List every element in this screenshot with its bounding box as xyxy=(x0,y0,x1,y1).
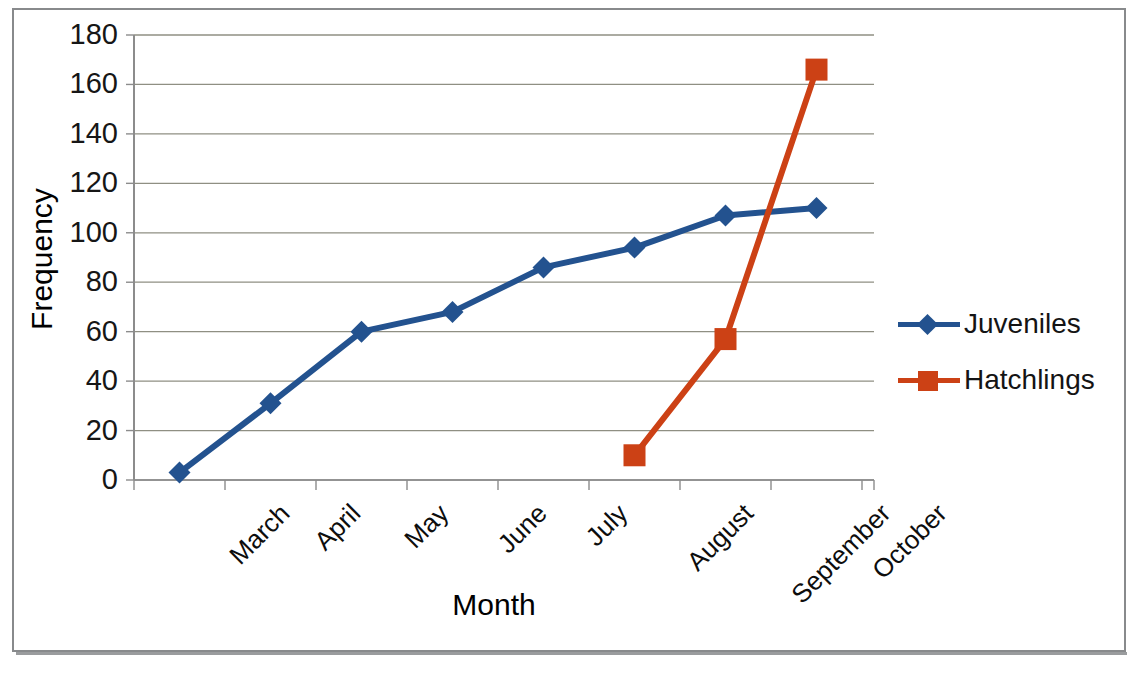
data-point-marker[interactable] xyxy=(715,204,737,226)
y-tick-label-20: 20 xyxy=(22,416,118,445)
y-tick-label-180: 180 xyxy=(22,20,118,49)
diamond-marker-icon xyxy=(898,311,960,337)
data-point-marker[interactable] xyxy=(624,444,646,466)
data-series-group xyxy=(169,59,828,484)
legend-marker xyxy=(917,314,938,335)
data-point-marker[interactable] xyxy=(442,301,464,323)
data-point-marker[interactable] xyxy=(806,197,828,219)
legend-label: Juveniles xyxy=(964,308,1081,340)
chart-legend: JuvenilesHatchlings xyxy=(898,296,1108,408)
axis-ticks-group xyxy=(126,35,874,490)
figure-frame: Frequency 180160140120100806040200 March… xyxy=(12,8,1126,652)
y-tick-label-100: 100 xyxy=(22,218,118,247)
y-tick-label-120: 120 xyxy=(22,168,118,197)
legend-entry-hatchlings[interactable]: Hatchlings xyxy=(898,352,1108,408)
data-point-marker[interactable] xyxy=(806,59,828,81)
x-axis-title: Month xyxy=(394,588,594,622)
y-tick-label-140: 140 xyxy=(22,119,118,148)
legend-marker xyxy=(918,371,938,391)
series-hatchlings xyxy=(624,59,828,467)
data-point-marker[interactable] xyxy=(624,237,646,259)
data-point-marker[interactable] xyxy=(533,256,555,278)
legend-entry-juveniles[interactable]: Juveniles xyxy=(898,296,1108,352)
gridlines-group xyxy=(134,35,874,480)
square-marker-icon xyxy=(898,367,960,393)
y-tick-label-60: 60 xyxy=(22,317,118,346)
data-point-marker[interactable] xyxy=(715,328,737,350)
legend-label: Hatchlings xyxy=(964,364,1095,396)
y-tick-label-40: 40 xyxy=(22,366,118,395)
y-tick-label-80: 80 xyxy=(22,267,118,296)
series-line-hatchlings xyxy=(635,70,817,456)
y-tick-label-0: 0 xyxy=(22,465,118,494)
y-tick-label-160: 160 xyxy=(22,69,118,98)
